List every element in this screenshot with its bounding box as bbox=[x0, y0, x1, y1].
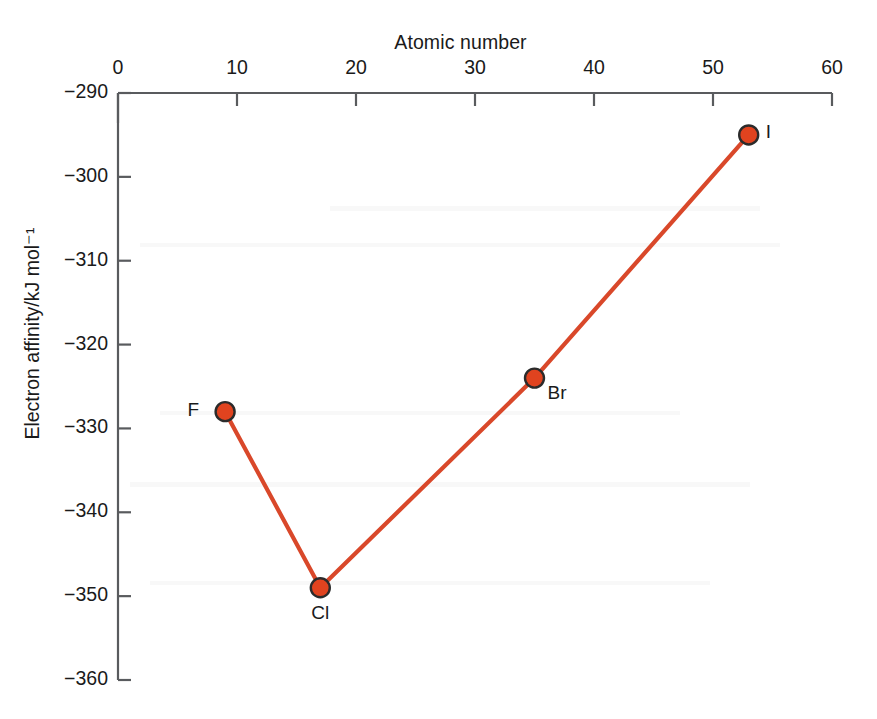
data-series-layer bbox=[216, 125, 759, 597]
y-tick-label: −310 bbox=[18, 248, 108, 271]
y-tick-label: −360 bbox=[18, 667, 108, 690]
y-tick-label: −340 bbox=[18, 499, 108, 522]
x-tick-label: 60 bbox=[802, 56, 862, 79]
data-point-label: F bbox=[119, 399, 199, 421]
data-point-label: Cl bbox=[280, 602, 360, 624]
x-axis-title-text: Atomic number bbox=[394, 31, 526, 54]
x-axis-title: Atomic number bbox=[0, 31, 877, 54]
x-tick-label: 0 bbox=[88, 56, 148, 79]
data-point-label: Br bbox=[548, 382, 567, 404]
plot-area: Atomic number Electron affinity/kJ mol⁻¹… bbox=[0, 0, 877, 719]
x-tick-label: 10 bbox=[207, 56, 267, 79]
chart-svg bbox=[0, 0, 877, 719]
data-point-label: I bbox=[766, 121, 771, 143]
x-tick-label: 50 bbox=[683, 56, 743, 79]
y-tick-label: −300 bbox=[18, 164, 108, 187]
x-tick-label: 30 bbox=[445, 56, 505, 79]
axis-layer bbox=[118, 93, 832, 680]
y-tick-label: −320 bbox=[18, 332, 108, 355]
chart-page: Atomic number Electron affinity/kJ mol⁻¹… bbox=[0, 0, 877, 719]
y-tick-label: −330 bbox=[18, 415, 108, 438]
x-tick-label: 40 bbox=[564, 56, 624, 79]
x-tick-label: 20 bbox=[326, 56, 386, 79]
y-tick-label: −350 bbox=[18, 583, 108, 606]
y-tick-label: −290 bbox=[18, 80, 108, 103]
